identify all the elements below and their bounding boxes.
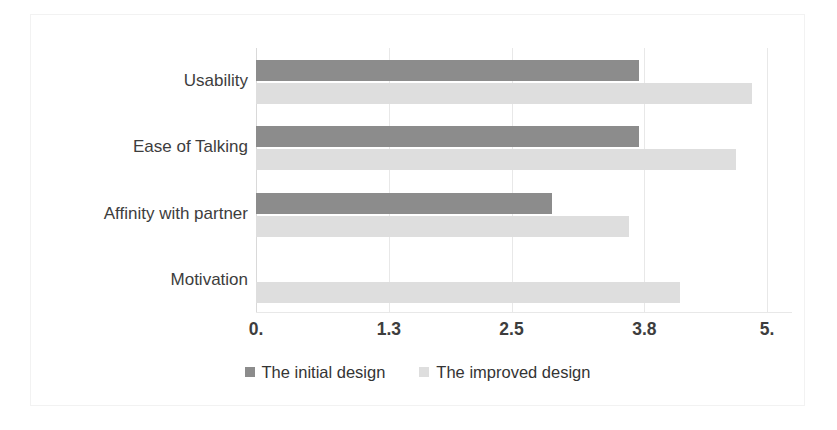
chart-legend: The initial design The improved design [31,359,804,385]
bar-usability-improved-design [256,83,752,104]
category-row-ease-of-talking: Ease of Talking [256,114,767,180]
category-row-motivation: Motivation [256,247,767,313]
bar-affinity-with-partner-improved-design [256,216,629,237]
legend-swatch-icon-improved-design [419,367,429,377]
xtick-label-4: 5. [760,319,775,340]
legend-label-improved-design: The improved design [436,363,590,382]
bar-ease-of-talking-improved-design [256,149,736,170]
legend-label-initial-design: The initial design [262,363,386,382]
category-row-usability: Usability [256,48,767,114]
legend-swatch-icon-initial-design [245,367,255,377]
bar-motivation-improved-design [256,282,680,303]
category-label-motivation: Motivation [171,247,248,313]
bar-affinity-with-partner-initial-design [256,193,552,214]
xtick-label-2: 2.5 [499,319,523,340]
category-label-usability: Usability [184,48,248,114]
category-row-affinity-with-partner: Affinity with partner [256,181,767,247]
bar-usability-initial-design [256,60,639,81]
plot-area: Usability Ease of Talking Affinity with … [256,48,767,313]
category-label-affinity-with-partner: Affinity with partner [104,181,248,247]
xtick-label-0: 0. [249,319,264,340]
category-label-ease-of-talking: Ease of Talking [133,114,248,180]
legend-entry-initial-design: The initial design [245,363,386,382]
gridline-4 [767,48,768,313]
bar-ease-of-talking-initial-design [256,126,639,147]
xtick-label-1: 1.3 [377,319,401,340]
chart-frame: Usability Ease of Talking Affinity with … [30,14,805,406]
legend-entry-improved-design: The improved design [419,363,590,382]
xtick-label-3: 3.8 [632,319,656,340]
